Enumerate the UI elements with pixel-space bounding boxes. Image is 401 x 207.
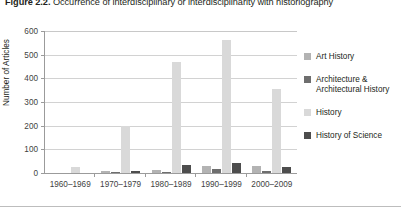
bar bbox=[111, 172, 120, 173]
bar bbox=[272, 89, 281, 173]
figure-caption: Figure 2.2. Occurrence of interdisciplin… bbox=[5, 0, 375, 8]
x-axis-tick bbox=[246, 173, 247, 177]
x-axis-label: 1980–1989 bbox=[146, 180, 196, 189]
y-axis-label: 100 bbox=[24, 145, 38, 154]
bar-group: 2000–2009 bbox=[247, 31, 297, 173]
bar-group: 1970–1979 bbox=[95, 31, 145, 173]
bar-groups: 1960–19691970–19791980–19891990–19992000… bbox=[45, 31, 297, 173]
x-axis-tick bbox=[145, 173, 146, 177]
bottom-divider bbox=[0, 206, 401, 207]
y-axis-label: 200 bbox=[24, 121, 38, 130]
y-axis-label: 300 bbox=[24, 98, 38, 107]
legend-item[interactable]: History of Science bbox=[304, 131, 401, 141]
bar bbox=[202, 166, 211, 173]
bar bbox=[152, 170, 161, 173]
x-axis-label: 1970–1979 bbox=[95, 180, 145, 189]
bar-group: 1960–1969 bbox=[45, 31, 95, 173]
legend-item-label: History bbox=[316, 108, 341, 118]
bar bbox=[172, 62, 181, 173]
y-axis-label: 0 bbox=[33, 169, 38, 178]
x-axis-tick bbox=[195, 173, 196, 177]
legend-item[interactable]: History bbox=[304, 108, 401, 118]
bar bbox=[212, 169, 221, 173]
x-axis-label: 1960–1969 bbox=[45, 180, 95, 189]
bar bbox=[162, 172, 171, 173]
legend-color-swatch bbox=[304, 109, 311, 116]
x-axis-label: 2000–2009 bbox=[247, 180, 297, 189]
figure-container: Figure 2.2. Occurrence of interdisciplin… bbox=[0, 0, 401, 207]
figure-number: Figure 2.2. bbox=[5, 0, 50, 7]
chart-legend: Art HistoryArchitecture & Architectural … bbox=[304, 52, 401, 154]
legend-item[interactable]: Architecture & Architectural History bbox=[304, 75, 401, 95]
legend-item-label: Art History bbox=[316, 52, 354, 62]
bar-group: 1980–1989 bbox=[146, 31, 196, 173]
bar bbox=[252, 166, 261, 173]
bar-group-bars bbox=[146, 31, 196, 173]
bar bbox=[222, 40, 231, 173]
legend-color-swatch bbox=[304, 53, 311, 60]
bar-group-bars bbox=[247, 31, 297, 173]
x-axis-label: 1990–1999 bbox=[196, 180, 246, 189]
bar bbox=[131, 171, 140, 173]
legend-color-swatch bbox=[304, 76, 311, 83]
bar-group-bars bbox=[196, 31, 246, 173]
legend-color-swatch bbox=[304, 132, 311, 139]
x-axis-tick bbox=[94, 173, 95, 177]
y-axis-tick bbox=[41, 173, 45, 174]
bar bbox=[182, 165, 191, 173]
bar bbox=[282, 167, 291, 173]
bar bbox=[232, 163, 241, 173]
y-axis-label: 400 bbox=[24, 74, 38, 83]
bar bbox=[121, 126, 130, 173]
plot-area: 0100200300400500600 1960–19691970–197919… bbox=[44, 31, 297, 174]
bar bbox=[262, 171, 271, 173]
bar bbox=[71, 167, 80, 173]
bar-chart: Number of Articles 0100200300400500600 1… bbox=[0, 24, 401, 207]
legend-item[interactable]: Art History bbox=[304, 52, 401, 62]
y-axis-label: 600 bbox=[24, 27, 38, 36]
bar-group-bars bbox=[95, 31, 145, 173]
figure-caption-text: Occurrence of interdisciplinary or inter… bbox=[50, 0, 333, 7]
legend-item-label: History of Science bbox=[316, 131, 382, 141]
y-axis-label: 500 bbox=[24, 50, 38, 59]
legend-item-label: Architecture & Architectural History bbox=[316, 75, 401, 95]
bar-group: 1990–1999 bbox=[196, 31, 246, 173]
bar-group-bars bbox=[45, 31, 95, 173]
bar bbox=[101, 171, 110, 173]
y-axis-title: Number of Articles bbox=[2, 39, 11, 106]
